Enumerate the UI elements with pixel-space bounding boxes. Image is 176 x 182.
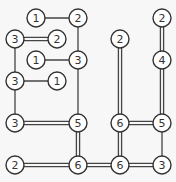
island-node[interactable]: 3 (69, 51, 87, 69)
island-node[interactable]: 1 (48, 72, 66, 90)
island-node[interactable]: 3 (6, 72, 24, 90)
island-node[interactable]: 4 (153, 51, 171, 69)
island-node[interactable]: 6 (111, 114, 129, 132)
island-value: 6 (75, 159, 82, 172)
puzzle-board: 1223221343135652663 (0, 0, 176, 182)
island-node[interactable]: 1 (27, 9, 45, 27)
island-node[interactable]: 2 (69, 9, 87, 27)
island-node[interactable]: 3 (153, 156, 171, 174)
island-node[interactable]: 5 (153, 114, 171, 132)
island-value: 4 (159, 54, 166, 67)
island-value: 3 (12, 117, 19, 130)
island-value: 2 (54, 33, 61, 46)
island-node[interactable]: 6 (111, 156, 129, 174)
island-value: 3 (75, 54, 82, 67)
island-value: 5 (159, 117, 166, 130)
island-node[interactable]: 2 (111, 30, 129, 48)
island-value: 1 (54, 75, 61, 88)
island-value: 6 (117, 159, 124, 172)
island-value: 1 (33, 54, 40, 67)
island-value: 5 (75, 117, 82, 130)
island-node[interactable]: 3 (6, 30, 24, 48)
island-value: 3 (12, 75, 19, 88)
island-node[interactable]: 1 (27, 51, 45, 69)
island-value: 2 (117, 33, 124, 46)
island-node[interactable]: 5 (69, 114, 87, 132)
island-value: 3 (12, 33, 19, 46)
island-value: 3 (159, 159, 166, 172)
island-value: 6 (117, 117, 124, 130)
islands-layer: 1223221343135652663 (6, 9, 171, 174)
puzzle-canvas: 1223221343135652663 (0, 0, 176, 182)
island-node[interactable]: 3 (6, 114, 24, 132)
island-value: 2 (12, 159, 19, 172)
island-node[interactable]: 2 (48, 30, 66, 48)
island-node[interactable]: 2 (6, 156, 24, 174)
island-value: 2 (75, 12, 82, 25)
bridges-layer (15, 18, 164, 167)
island-value: 2 (159, 12, 166, 25)
island-value: 1 (33, 12, 40, 25)
island-node[interactable]: 6 (69, 156, 87, 174)
island-node[interactable]: 2 (153, 9, 171, 27)
